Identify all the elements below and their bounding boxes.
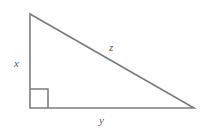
triangle-drawing: [0, 0, 208, 137]
side-label-z: z: [109, 42, 113, 53]
side-label-y: y: [99, 115, 104, 126]
side-label-x: x: [14, 58, 19, 69]
right-angle-marker-icon: [30, 89, 48, 108]
right-triangle-figure: x y z: [0, 0, 208, 137]
triangle-outline: [30, 14, 194, 108]
